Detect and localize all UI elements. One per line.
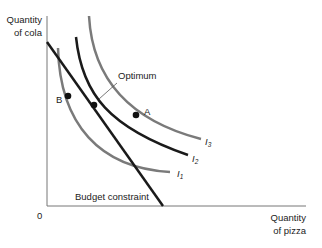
point-a-label: A (144, 106, 151, 117)
point-b-label: B (56, 94, 62, 105)
i1-label: I1 (177, 168, 184, 180)
budget-constraint-line (47, 42, 163, 206)
indifference-curve-i1 (58, 48, 170, 172)
optimum-leader-line (99, 83, 117, 99)
i3-label: I3 (205, 136, 212, 148)
indifference-curve-i2 (76, 37, 188, 155)
x-axis-label-1: Quantity (271, 212, 307, 223)
optimum-label: Optimum (118, 70, 157, 81)
point-optimum (91, 102, 98, 109)
budget-label: Budget constraint (75, 191, 149, 202)
x-axis-label-2: of pizza (273, 225, 306, 236)
point-a (133, 112, 140, 119)
y-axis-label-1: Quantity (7, 14, 43, 25)
y-axis-label-2: of cola (14, 27, 43, 38)
indifference-diagram: Quantity of cola Quantity of pizza 0 Opt… (0, 0, 322, 248)
origin-label: 0 (37, 210, 42, 221)
point-b (65, 93, 72, 100)
i2-label: I2 (192, 153, 199, 165)
